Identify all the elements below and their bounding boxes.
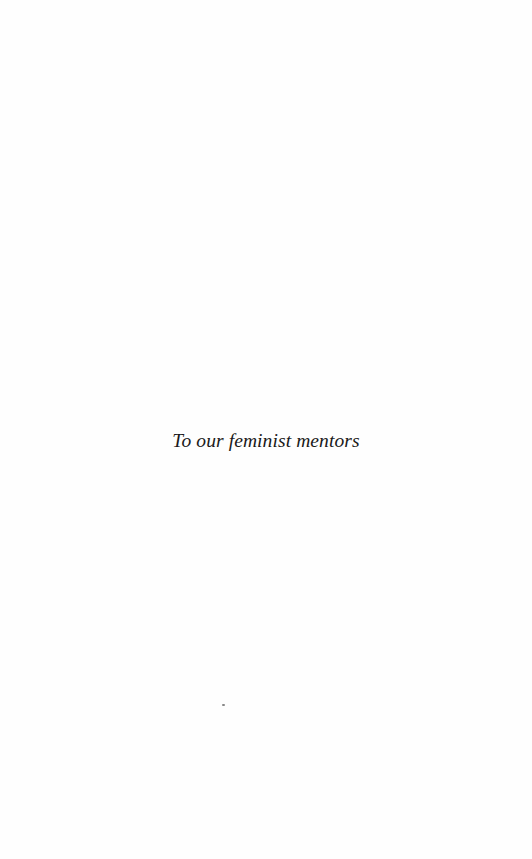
dedication-text: To our feminist mentors xyxy=(0,429,532,453)
scan-artifact xyxy=(222,704,225,706)
book-page: To our feminist mentors xyxy=(0,0,532,859)
